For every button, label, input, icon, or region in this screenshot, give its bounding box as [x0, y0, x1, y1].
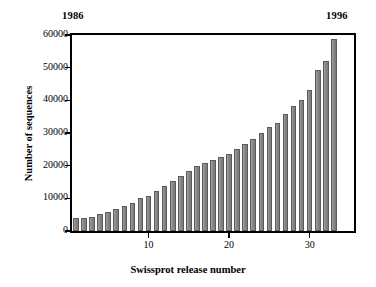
bar — [299, 100, 305, 231]
plot-frame — [70, 33, 356, 233]
x-axis-tick — [228, 233, 229, 238]
y-axis-tick-label: 10000 — [8, 191, 68, 202]
bar — [307, 90, 313, 231]
y-axis-tick-label: 20000 — [8, 159, 68, 170]
bar — [162, 186, 168, 231]
x-axis-tick — [148, 233, 149, 238]
bar — [210, 160, 216, 231]
chart-figure: 1986 1996 Number of sequences Swissprot … — [0, 0, 376, 287]
bar — [242, 144, 248, 231]
bar — [81, 218, 87, 231]
bar — [97, 214, 103, 231]
x-axis-tick-label: 10 — [129, 239, 169, 250]
y-axis-tick-label: 0 — [8, 224, 68, 235]
plot-area — [72, 35, 354, 231]
bar — [186, 171, 192, 231]
bar — [226, 154, 232, 231]
bar — [146, 196, 152, 231]
bar — [178, 176, 184, 231]
bar — [250, 139, 256, 231]
bar — [202, 163, 208, 231]
y-axis-tick-label: 60000 — [8, 28, 68, 39]
x-axis-title: Swissprot release number — [0, 264, 376, 275]
annotation-end-year: 1996 — [326, 10, 348, 21]
bar — [138, 198, 144, 231]
bar — [283, 114, 289, 231]
bar — [105, 212, 111, 231]
bar — [73, 218, 79, 231]
bar — [113, 209, 119, 231]
bar — [323, 61, 329, 231]
x-axis-tick-label: 20 — [209, 239, 249, 250]
bar — [154, 191, 160, 231]
bar — [315, 70, 321, 231]
annotation-start-year: 1986 — [62, 10, 84, 21]
bar — [275, 123, 281, 231]
bar — [194, 166, 200, 231]
x-axis-tick — [309, 233, 310, 238]
bar — [291, 106, 297, 231]
x-axis-tick-label: 30 — [290, 239, 330, 250]
y-axis-tick-label: 40000 — [8, 93, 68, 104]
y-axis-tick-label: 30000 — [8, 126, 68, 137]
y-axis-tick-label: 50000 — [8, 61, 68, 72]
bar — [130, 203, 136, 231]
bar — [170, 181, 176, 231]
bar — [218, 157, 224, 231]
bar — [259, 133, 265, 231]
bar — [234, 149, 240, 231]
bar — [122, 206, 128, 231]
bar — [267, 127, 273, 231]
bar — [331, 39, 337, 231]
bar — [89, 217, 95, 231]
